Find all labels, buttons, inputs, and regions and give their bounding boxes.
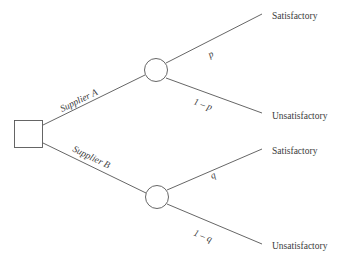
branch-line-one-minus-q <box>167 204 262 244</box>
branch-line-supplier-a <box>43 75 145 125</box>
decision-node-square <box>15 121 43 148</box>
chance-node-a-circle <box>145 59 168 82</box>
decision-tree-diagram: Supplier A Supplier B p 1 – p q 1 – q Sa… <box>0 0 351 267</box>
outcome-label-a-satisfactory: Satisfactory <box>272 11 318 21</box>
branch-line-q <box>167 149 262 190</box>
outcome-label-b-satisfactory: Satisfactory <box>272 146 318 156</box>
branch-line-supplier-b <box>43 143 146 193</box>
probability-label-q: q <box>209 170 218 181</box>
probability-label-one-minus-q: 1 – q <box>192 228 214 245</box>
probability-label-p: p <box>205 49 215 61</box>
probability-label-one-minus-p: 1 – p <box>192 96 214 112</box>
outcome-label-b-unsatisfactory: Unsatisfactory <box>272 241 328 251</box>
branch-line-one-minus-p <box>166 78 262 113</box>
outcome-label-a-unsatisfactory: Unsatisfactory <box>272 111 328 121</box>
chance-node-b-circle <box>146 186 169 209</box>
